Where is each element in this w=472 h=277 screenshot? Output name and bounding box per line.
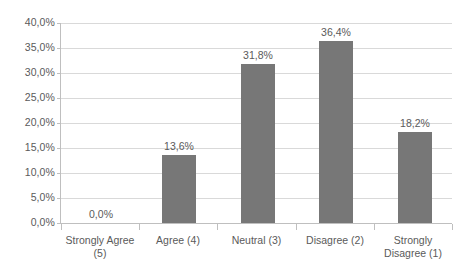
bar-value-label: 13,6% — [139, 141, 219, 152]
x-axis-tick-mark — [61, 224, 62, 230]
x-axis-category-label: Strongly Disagree (1) — [374, 234, 452, 260]
y-axis-tick-label: 30,0% — [0, 67, 55, 78]
bar-chart: 40,0% 35,0% 30,0% 25,0% 20,0% 15,0% 10,0… — [0, 0, 472, 277]
y-axis-tick-label: 25,0% — [0, 92, 55, 103]
x-axis-tick-mark — [296, 224, 297, 230]
x-axis-tick-mark — [217, 224, 218, 230]
x-axis-line — [61, 223, 452, 224]
bar[interactable] — [398, 132, 432, 223]
bar[interactable] — [241, 64, 275, 223]
x-axis-category-label: Strongly Agree (5) — [61, 234, 139, 260]
bar[interactable] — [319, 41, 353, 223]
bar-value-label: 18,2% — [375, 118, 455, 129]
y-axis-tick-labels: 40,0% 35,0% 30,0% 25,0% 20,0% 15,0% 10,0… — [0, 0, 55, 277]
bar-value-label: 0,0% — [61, 209, 141, 220]
bar-value-label: 31,8% — [218, 50, 298, 61]
bar-value-label: 36,4% — [296, 27, 376, 38]
y-axis-tick-label: 10,0% — [0, 167, 55, 178]
y-axis-tick-label: 40,0% — [0, 17, 55, 28]
y-axis-tick-label: 5,0% — [0, 192, 55, 203]
x-axis-tick-mark — [452, 224, 453, 230]
y-axis-tick-label: 15,0% — [0, 142, 55, 153]
x-axis-category-label: Agree (4) — [139, 234, 217, 247]
x-axis-tick-mark — [139, 224, 140, 230]
x-axis-category-label: Neutral (3) — [217, 234, 296, 247]
plot-area: 0,0% 13,6% 31,8% 36,4% 18,2% — [61, 23, 452, 223]
y-axis-tick-label: 35,0% — [0, 42, 55, 53]
y-axis-tick-label: 20,0% — [0, 117, 55, 128]
bar[interactable] — [162, 155, 196, 223]
y-axis-tick-label: 0,0% — [0, 217, 55, 228]
gridline — [61, 23, 452, 24]
x-axis-tick-mark — [374, 224, 375, 230]
x-axis-category-label: Disagree (2) — [296, 234, 374, 247]
